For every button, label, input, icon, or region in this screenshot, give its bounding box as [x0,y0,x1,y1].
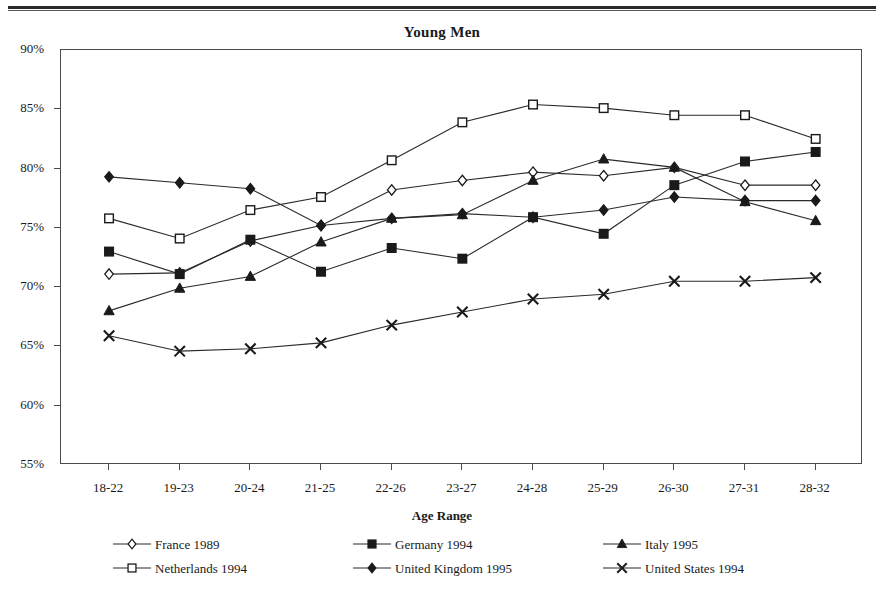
y-axis-labels: 90%85%80%75%70%65%60%55% [0,0,58,480]
legend-item-italy-1995[interactable]: Italy 1995 [602,532,772,556]
data-point-diamond-filled [317,220,326,230]
x-axis-tick-label: 24-28 [517,480,547,496]
y-axis-tick-label: 80% [20,160,44,176]
x-axis-title: Age Range [0,508,884,524]
data-point-square-open [317,193,326,202]
chart-title: Young Men [0,24,884,41]
data-point-square-open [529,100,538,109]
figure: Young Men 90%85%80%75%70%65%60%55% 18-22… [0,0,884,602]
x-axis-tick-label: 18-22 [93,480,123,496]
y-axis-tick-label: 60% [20,397,44,413]
x-axis-tick-mark [461,464,462,470]
data-point-square-filled [670,181,679,190]
x-axis-tick-label: 22-26 [376,480,406,496]
data-point-diamond-open [599,170,608,180]
series-canvas [61,50,863,465]
data-point-square-filled [811,148,820,157]
legend-item-germany-1994[interactable]: Germany 1994 [352,532,602,556]
data-point-square-filled [599,229,608,238]
x-axis-tick-label: 26-30 [658,480,688,496]
legend-item-france-1989[interactable]: France 1989 [112,532,352,556]
data-point-triangle-filled [617,539,626,548]
series-3 [105,100,820,243]
x-axis-tick-mark [815,464,816,470]
data-point-diamond-open [741,180,750,190]
legend-marker-square-filled-icon [352,536,392,552]
data-point-square-open [458,118,467,127]
x-axis-tick-mark [320,464,321,470]
legend-item-united-states-1994[interactable]: United States 1994 [602,556,772,580]
legend-label: France 1989 [155,538,220,551]
data-point-square-filled [368,540,376,548]
x-axis-tick-mark [249,464,250,470]
x-axis-tick-label: 25-29 [588,480,618,496]
legend-label: Netherlands 1994 [155,562,247,575]
y-axis-tick-label: 55% [20,456,44,472]
y-axis-tick-label: 65% [20,337,44,353]
legend-item-netherlands-1994[interactable]: Netherlands 1994 [112,556,352,580]
x-axis-tick-mark [391,464,392,470]
data-point-diamond-filled [105,172,114,182]
data-point-square-filled [741,157,750,166]
data-point-square-filled [175,270,184,279]
data-point-square-filled [317,267,326,276]
data-point-square-open [670,111,679,120]
data-point-square-open [175,234,184,243]
data-point-square-open [246,206,255,215]
legend-marker-diamond-open-icon [112,536,152,552]
data-point-diamond-filled [368,563,376,573]
data-point-square-open [128,564,136,572]
data-point-square-open [811,135,820,144]
data-point-diamond-open [387,185,396,195]
x-axis-tick-mark [603,464,604,470]
series-5 [104,272,821,356]
x-axis-tick-mark [744,464,745,470]
header-rule [8,6,876,9]
data-point-diamond-filled [246,184,255,194]
x-axis-tick-mark [108,464,109,470]
x-axis-tick-label: 28-32 [799,480,829,496]
data-point-triangle-filled [599,154,609,163]
legend-label: Italy 1995 [645,538,698,551]
legend-label: United Kingdom 1995 [395,562,512,575]
data-point-diamond-open [458,175,467,185]
series-line [109,278,816,352]
x-axis-tick-label: 27-31 [729,480,759,496]
legend-label: Germany 1994 [395,538,473,551]
data-point-cross [104,331,114,341]
legend-marker-cross-icon [602,560,642,576]
y-axis-tick-label: 90% [20,41,44,57]
data-point-diamond-open [811,180,820,190]
data-point-diamond-open [105,269,114,279]
data-point-square-open [387,156,396,165]
legend-marker-triangle-filled-icon [602,536,642,552]
data-point-square-open [599,104,608,113]
legend: France 1989Germany 1994Italy 1995Netherl… [112,532,772,580]
data-point-square-filled [246,235,255,244]
x-axis-tick-mark [673,464,674,470]
x-axis-tick-label: 23-27 [446,480,476,496]
x-axis-tick-label: 19-23 [164,480,194,496]
legend-marker-square-open-icon [112,560,152,576]
y-axis-tick-label: 85% [20,100,44,116]
plot-area [60,49,862,464]
data-point-diamond-filled [670,192,679,202]
data-point-square-open [105,214,114,223]
data-point-cross [386,320,396,330]
x-axis-tick-mark [179,464,180,470]
data-point-diamond-open [128,539,136,549]
legend-label: United States 1994 [645,562,744,575]
data-point-diamond-filled [599,205,608,215]
y-axis-tick-label: 75% [20,219,44,235]
data-point-square-open [741,111,750,120]
data-point-diamond-filled [811,195,820,205]
legend-item-united-kingdom-1995[interactable]: United Kingdom 1995 [352,556,602,580]
x-axis-labels: 18-2219-2320-2421-2522-2623-2724-2825-29… [60,470,862,500]
x-axis-tick-label: 20-24 [234,480,264,496]
data-point-square-filled [105,247,114,256]
y-axis-tick-label: 70% [20,278,44,294]
data-point-square-filled [387,244,396,253]
data-point-triangle-filled [245,271,255,280]
legend-row: France 1989Germany 1994Italy 1995 [112,532,772,556]
x-axis-tick-mark [532,464,533,470]
